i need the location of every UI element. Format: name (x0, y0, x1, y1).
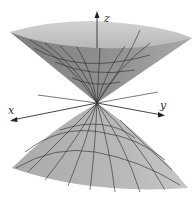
cone-diagram: z x (0, 0, 195, 200)
x-arrow-icon (10, 117, 18, 122)
y-arrow-icon (158, 112, 165, 118)
z-arrow-icon (95, 11, 100, 18)
z-axis-label: z (103, 12, 110, 25)
y-axis-label: y (159, 99, 167, 112)
x-axis-label: x (8, 104, 15, 117)
double-cone-figure: z x (0, 0, 195, 200)
upper-nappe (10, 21, 192, 103)
